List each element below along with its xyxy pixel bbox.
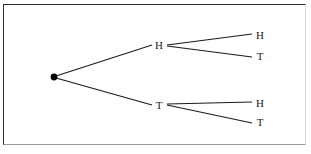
tree-edges-level-2-from-t <box>167 102 252 123</box>
edge-t-to-h <box>167 102 252 104</box>
node-label-t-level1: T <box>152 100 166 111</box>
tree-diagram-canvas <box>0 0 311 154</box>
tree-edges-level-1 <box>56 45 152 105</box>
node-label-t-outcome-ht: T <box>253 51 267 62</box>
edge-root-to-h <box>56 45 152 76</box>
edge-root-to-t <box>56 78 152 105</box>
node-label-t-outcome-tt: T <box>253 117 267 128</box>
root-node-dot <box>51 74 58 81</box>
edge-h-to-h <box>167 34 252 45</box>
edge-t-to-t <box>167 105 252 123</box>
node-label-h-outcome-hh: H <box>253 30 267 41</box>
tree-edges-level-2-from-h <box>167 34 252 57</box>
node-label-h-outcome-th: H <box>253 98 267 109</box>
node-label-h-level1: H <box>152 40 166 51</box>
edge-h-to-t <box>167 46 252 57</box>
